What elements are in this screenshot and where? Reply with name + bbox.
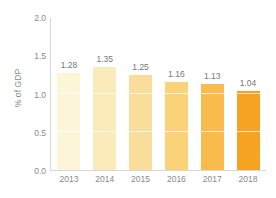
x-axis-tick-labels: 2013 2014 2015 2016 2017 2018 xyxy=(51,174,266,184)
bar[interactable]: 1.16 xyxy=(165,82,188,170)
bar-value-label: 1.25 xyxy=(132,62,149,72)
x-axis-tick-label: 2015 xyxy=(123,174,159,184)
bar-value-label: 1.13 xyxy=(204,71,221,81)
bars-layer: 1.28 1.35 1.25 1.16 1.13 xyxy=(51,18,266,170)
bar-value-label: 1.16 xyxy=(168,69,185,79)
bar[interactable]: 1.13 xyxy=(201,84,224,170)
bar[interactable]: 1.04 xyxy=(237,91,260,170)
x-axis-tick-label: 2018 xyxy=(230,174,266,184)
y-axis-tick-label: 1.5 xyxy=(34,51,46,61)
bar-slot: 1.13 xyxy=(194,18,230,170)
y-axis-tick-labels: 2.0 1.5 1.0 0.5 0.0 xyxy=(26,18,46,171)
y-axis-title: % of GDP xyxy=(9,0,27,175)
x-axis-tick-label: 2014 xyxy=(87,174,123,184)
x-axis-tick-label: 2017 xyxy=(194,174,230,184)
bar[interactable]: 1.28 xyxy=(57,73,80,170)
plot-area: 1.28 1.35 1.25 1.16 1.13 xyxy=(50,18,266,171)
bar[interactable]: 1.25 xyxy=(129,75,152,170)
bar-slot: 1.16 xyxy=(158,18,194,170)
bar-slot: 1.04 xyxy=(230,18,266,170)
bar-chart: % of GDP 2.0 1.5 1.0 0.5 0.0 1.28 1.35 1 xyxy=(0,0,276,198)
y-axis-tick-label: 2.0 xyxy=(34,13,46,23)
bar[interactable]: 1.35 xyxy=(93,67,116,170)
bar-slot: 1.25 xyxy=(123,18,159,170)
y-axis-tick-label: 0.0 xyxy=(34,166,46,176)
bar-slot: 1.35 xyxy=(87,18,123,170)
y-axis-title-label: % of GDP xyxy=(13,68,23,107)
x-axis-tick-label: 2013 xyxy=(51,174,87,184)
y-axis-tick-label: 0.5 xyxy=(34,128,46,138)
y-axis-tick-label: 1.0 xyxy=(34,90,46,100)
x-axis-line xyxy=(50,170,266,171)
bar-value-label: 1.35 xyxy=(96,54,113,64)
bar-slot: 1.28 xyxy=(51,18,87,170)
x-axis-tick-label: 2016 xyxy=(158,174,194,184)
bar-value-label: 1.28 xyxy=(61,60,78,70)
bar-value-label: 1.04 xyxy=(240,78,257,88)
